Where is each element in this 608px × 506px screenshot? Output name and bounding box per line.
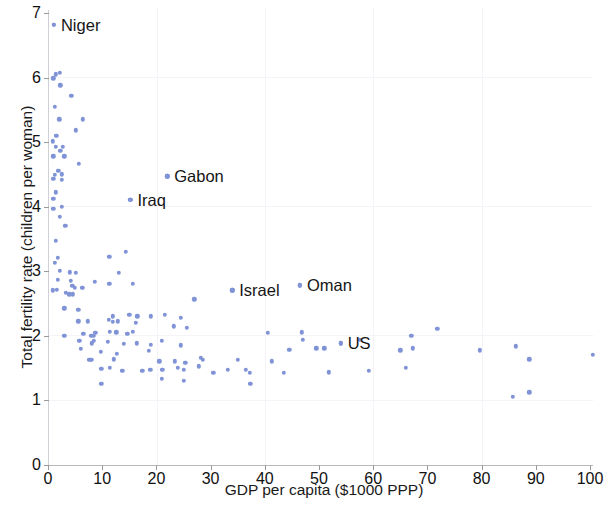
x-axis-line (48, 465, 593, 466)
data-point (148, 367, 152, 371)
data-point (409, 333, 413, 337)
data-point (54, 133, 58, 137)
data-point (367, 369, 371, 373)
data-point (69, 93, 73, 97)
annotated-data-point (298, 283, 302, 287)
data-point (73, 128, 77, 132)
data-point (160, 377, 164, 381)
point-label-iraq: Iraq (137, 191, 165, 210)
data-point (59, 172, 63, 176)
data-point (73, 286, 77, 290)
data-point (51, 177, 55, 181)
data-point (76, 307, 80, 311)
scatter-plot: 0102030405060708090100 01234567 NigerGab… (0, 0, 608, 506)
data-point (172, 324, 176, 328)
data-point (107, 282, 111, 286)
data-point (149, 314, 153, 318)
y-axis-title: Total fertility rate (children per woman… (18, 72, 36, 402)
data-point (58, 149, 62, 153)
y-tick (44, 78, 49, 79)
data-point (192, 297, 196, 301)
data-point (247, 371, 251, 375)
data-point (591, 353, 595, 357)
data-point (53, 238, 57, 242)
point-label-gabon: Gabon (174, 167, 224, 186)
data-point (122, 342, 126, 346)
data-point (60, 178, 64, 182)
data-point (127, 313, 131, 317)
data-point (160, 367, 164, 371)
data-point (62, 154, 66, 158)
data-point (179, 316, 183, 320)
y-tick (44, 400, 49, 401)
data-point (115, 351, 119, 355)
data-point (99, 382, 103, 386)
data-point (135, 314, 139, 318)
x-axis-title: GDP per capita ($1000 PPP) (0, 481, 608, 499)
y-tick (44, 271, 49, 272)
data-point (108, 329, 112, 333)
data-point (179, 343, 183, 347)
data-point (54, 288, 58, 292)
data-point (135, 341, 139, 345)
y-tick (44, 207, 49, 208)
data-point (76, 319, 80, 323)
annotated-data-point (52, 22, 56, 26)
data-point (114, 330, 118, 334)
data-point (78, 347, 82, 351)
data-point (53, 144, 57, 148)
data-point (435, 327, 439, 331)
point-label-israel: Israel (239, 281, 279, 300)
data-point (299, 330, 303, 334)
data-point (91, 338, 95, 342)
point-label-oman: Oman (307, 276, 352, 295)
data-point (398, 348, 402, 352)
data-point (51, 207, 55, 211)
data-point (181, 367, 185, 371)
data-point (211, 371, 215, 375)
data-point (56, 256, 60, 260)
data-point (58, 71, 62, 75)
data-point (108, 366, 112, 370)
data-point (99, 367, 103, 371)
y-tick (44, 336, 49, 337)
data-point (77, 338, 81, 342)
data-point (185, 326, 189, 330)
data-point (514, 344, 518, 348)
data-point (527, 357, 531, 361)
data-point (57, 117, 61, 121)
data-point (67, 270, 71, 274)
data-point (235, 358, 239, 362)
data-point (201, 358, 205, 362)
data-point (105, 340, 109, 344)
data-point (140, 369, 144, 373)
data-point (130, 329, 134, 333)
data-point (51, 76, 55, 80)
data-point (130, 282, 134, 286)
data-point (111, 314, 115, 318)
data-point (404, 366, 408, 370)
gridline-horizontal (49, 335, 593, 336)
data-point (69, 278, 73, 282)
annotated-data-point (165, 174, 169, 178)
data-point (287, 347, 291, 351)
gridline-horizontal (49, 400, 593, 401)
annotated-data-point (230, 288, 234, 292)
data-point (58, 269, 62, 273)
data-point (53, 190, 57, 194)
gridline-horizontal (49, 206, 593, 207)
data-point (71, 292, 75, 296)
data-point (314, 346, 318, 350)
y-tick (44, 142, 49, 143)
point-label-us: US (348, 334, 371, 353)
data-point (116, 319, 120, 323)
data-point (411, 346, 415, 350)
data-point (51, 197, 55, 201)
y-tick-label: 7 (32, 4, 41, 22)
y-tick-label: 0 (32, 456, 41, 474)
data-point (117, 271, 121, 275)
data-point (77, 162, 81, 166)
data-point (89, 358, 93, 362)
data-point (80, 117, 84, 121)
data-point (226, 367, 230, 371)
